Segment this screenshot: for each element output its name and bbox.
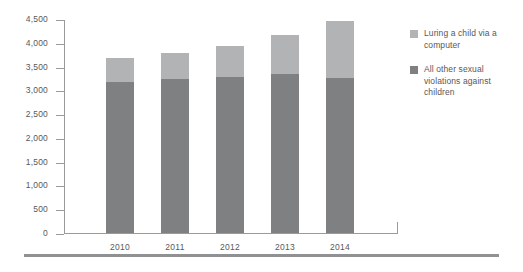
- y-axis-tick-mark: [56, 234, 64, 235]
- y-axis-tick-mark: [56, 20, 64, 21]
- bar-stack[interactable]: [216, 46, 244, 233]
- bar-segment-other-violations[interactable]: [271, 74, 299, 233]
- x-axis-tick-label: 2010: [110, 242, 130, 252]
- y-axis-tick-label: 2,000: [26, 133, 48, 143]
- bar-segment-luring[interactable]: [216, 46, 244, 77]
- bar-stack[interactable]: [271, 35, 299, 233]
- y-axis-tick-label: 3,500: [26, 62, 48, 72]
- y-axis-tick-label: 4,500: [26, 14, 48, 24]
- y-axis-tick-mark: [56, 186, 64, 187]
- bar-segment-luring[interactable]: [161, 53, 189, 80]
- y-axis-tick-label: 500: [33, 204, 48, 214]
- bottom-rule-divider: [24, 254, 499, 257]
- y-axis-tick-mark: [56, 115, 64, 116]
- y-axis-tick-mark: [56, 91, 64, 92]
- bar-stack[interactable]: [326, 21, 354, 233]
- y-axis-tick-label: 3,000: [26, 85, 48, 95]
- x-axis-endcap: [397, 222, 398, 234]
- y-axis-tick-mark: [56, 44, 64, 45]
- legend-swatch-other: [410, 66, 418, 74]
- plot-area: 05001,0001,5002,0002,5003,0003,5004,0004…: [64, 20, 394, 234]
- bar-series-container: 20102011201220132014: [65, 20, 394, 233]
- y-axis-tick-label: 1,000: [26, 180, 48, 190]
- legend-label: Luring a child via a computer: [424, 28, 520, 51]
- bar-segment-other-violations[interactable]: [161, 79, 189, 233]
- bar-segment-other-violations[interactable]: [106, 82, 134, 233]
- legend-entry[interactable]: All other sexual violations against chil…: [410, 64, 520, 99]
- bar-segment-luring[interactable]: [271, 35, 299, 74]
- bar-segment-other-violations[interactable]: [326, 78, 354, 234]
- y-axis-tick-mark: [56, 139, 64, 140]
- y-axis-tick-label: 4,000: [26, 38, 48, 48]
- x-axis-tick-label: 2014: [330, 242, 350, 252]
- legend-entry[interactable]: Luring a child via a computer: [410, 28, 520, 51]
- bar-stack[interactable]: [161, 53, 189, 233]
- bar-segment-luring[interactable]: [326, 21, 354, 78]
- legend-label: All other sexual violations against chil…: [424, 64, 520, 99]
- chart-legend: Luring a child via a computerAll other s…: [410, 28, 520, 112]
- y-axis-tick-label: 1,500: [26, 157, 48, 167]
- x-axis-line: [64, 233, 398, 234]
- y-axis-tick-mark: [56, 210, 64, 211]
- legend-swatch-luring: [410, 30, 418, 38]
- x-axis-tick-label: 2012: [220, 242, 240, 252]
- stacked-bar-chart-figure: 05001,0001,5002,0002,5003,0003,5004,0004…: [0, 0, 523, 272]
- x-axis-tick-label: 2011: [165, 242, 184, 252]
- y-axis-tick-mark: [56, 68, 64, 69]
- y-axis-tick-mark: [56, 163, 64, 164]
- x-axis-tick-label: 2013: [275, 242, 295, 252]
- bar-stack[interactable]: [106, 58, 134, 233]
- bar-segment-luring[interactable]: [106, 58, 134, 83]
- y-axis-tick-label: 2,500: [26, 109, 48, 119]
- bar-segment-other-violations[interactable]: [216, 77, 244, 233]
- y-axis-tick-label: 0: [43, 228, 48, 238]
